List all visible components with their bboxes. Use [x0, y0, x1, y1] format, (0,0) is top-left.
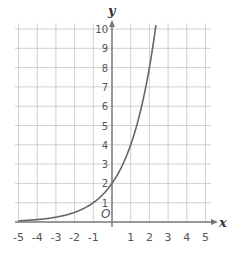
x-tick-label: 1 [127, 231, 134, 244]
axes [15, 20, 218, 227]
x-tick-label: -3 [50, 231, 61, 244]
x-tick-label: 4 [183, 231, 190, 244]
y-tick-label: 6 [102, 101, 108, 112]
origin-label: O [101, 207, 110, 221]
y-tick-label: 3 [102, 159, 108, 170]
x-tick-label: -1 [88, 231, 99, 244]
y-tick-label: 8 [102, 63, 108, 74]
grid-lines [15, 23, 211, 222]
tick-labels: -5-4-3-2-11234512345678910 [13, 24, 209, 244]
y-tick-label: 4 [102, 140, 108, 151]
y-axis-label: y [107, 3, 117, 18]
graph: -5-4-3-2-11234512345678910 x y O [0, 0, 246, 253]
x-tick-label: 2 [146, 231, 153, 244]
y-tick-label: 7 [102, 82, 108, 93]
x-tick-label: 5 [202, 231, 209, 244]
y-tick-label: 10 [95, 24, 108, 35]
x-tick-label: -2 [69, 231, 80, 244]
x-tick-label: -5 [13, 231, 24, 244]
exponential-curve [19, 25, 156, 221]
x-tick-label: -4 [32, 231, 43, 244]
y-tick-label: 5 [102, 121, 108, 132]
x-axis-label: x [218, 215, 227, 230]
x-tick-label: 3 [165, 231, 172, 244]
y-tick-label: 9 [102, 43, 108, 54]
y-tick-label: 2 [102, 178, 108, 189]
